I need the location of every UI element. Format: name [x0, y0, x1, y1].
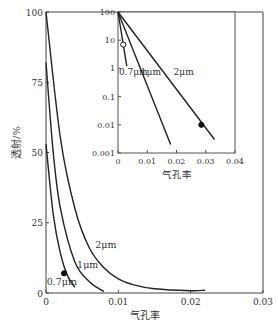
inset-x-axis-label: 气孔率: [162, 169, 192, 180]
inset-frame: [118, 12, 235, 153]
inset-y-tick-label: 0.1: [102, 93, 115, 102]
curve-0.7μm: [46, 144, 75, 287]
inset-y-tick-label: 100: [100, 8, 115, 17]
y-tick-label: 75: [32, 78, 44, 88]
inset-marker: [199, 122, 204, 127]
inset-y-tick-label: 1: [110, 64, 115, 73]
inset-marker: [121, 42, 126, 47]
inset-y-tick-label: 10: [105, 36, 115, 45]
x-tick-label: 0.02: [181, 297, 201, 307]
transmission-vs-porosity-chart: 025507510000.010.020.03气孔率透射/%0.7μm1μm2μ…: [0, 0, 278, 329]
x-axis-label: 气孔率: [130, 309, 160, 321]
inset-y-tick-label: 0.01: [97, 121, 115, 130]
inset-y-tick-label: 0.001: [92, 149, 115, 158]
inset-x-tick-label: 0.01: [138, 157, 156, 166]
x-tick-label: 0: [43, 297, 49, 307]
inset-x-tick-label: 0.04: [226, 157, 244, 166]
x-tick-label: 0.01: [108, 297, 128, 307]
inset-plot: 0.0010.010.111010000.010.020.030.04气孔率0.…: [92, 8, 244, 180]
y-tick-label: 50: [32, 148, 44, 158]
series-label: 0.7μm: [47, 276, 77, 287]
series-label: 1μm: [77, 259, 98, 270]
y-tick-label: 100: [26, 8, 43, 18]
inset-x-tick-label: 0.03: [197, 157, 215, 166]
inset-series-label: 1μm: [141, 67, 162, 77]
y-axis-label: 透射/%: [11, 126, 22, 159]
y-tick-label: 25: [32, 218, 44, 228]
inset-series-label: 2μm: [174, 67, 195, 77]
inset-x-tick-label: 0.02: [168, 157, 186, 166]
x-tick-label: 0.03: [253, 297, 273, 307]
inset-x-tick-label: 0: [115, 157, 120, 166]
series-label: 2μm: [95, 239, 116, 250]
